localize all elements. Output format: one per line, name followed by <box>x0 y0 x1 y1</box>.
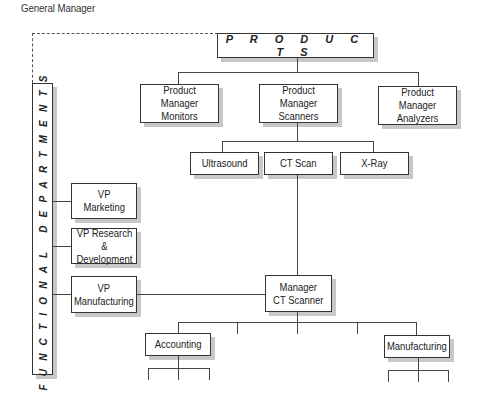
connector <box>373 141 374 152</box>
connector <box>418 72 419 86</box>
connector <box>297 312 298 334</box>
product-manager-scanners-label: Product Manager Scanners <box>265 84 331 123</box>
manager-ct-scanner-box: Manager CT Scanner <box>265 275 332 312</box>
gm-dashed-link-vertical <box>32 33 33 83</box>
connector <box>357 322 358 334</box>
connector <box>53 246 71 247</box>
product-manager-scanners-box: Product Manager Scanners <box>259 84 338 123</box>
connector <box>148 368 210 369</box>
ct-scan-box: CT Scan <box>264 152 333 175</box>
vp-research-development-box: VP Research & Development <box>71 228 137 264</box>
connector <box>178 322 179 333</box>
product-manager-analyzers-box: Product Manager Analyzers <box>378 86 457 125</box>
vp-manufacturing-box: VP Manufacturing <box>71 276 137 313</box>
x-ray-label: X-Ray <box>361 157 387 170</box>
accounting-box: Accounting <box>145 333 211 356</box>
connector <box>297 123 298 141</box>
connector <box>297 175 298 275</box>
products-box: P R O D U C T S <box>217 33 374 58</box>
connector <box>178 72 179 84</box>
manager-ct-scanner-label: Manager CT Scanner <box>273 281 323 307</box>
ultrasound-box: Ultrasound <box>190 152 259 175</box>
connector <box>222 141 223 152</box>
connector <box>297 58 298 72</box>
connector <box>137 294 265 295</box>
connector <box>448 370 449 382</box>
ct-scan-label: CT Scan <box>280 157 317 170</box>
org-chart-canvas: General Manager P R O D U C T S Product … <box>0 0 483 401</box>
connector <box>388 370 449 371</box>
product-manager-monitors-label: Product Manager Monitors <box>146 84 212 123</box>
connector <box>222 141 374 142</box>
connector <box>148 368 149 380</box>
manufacturing-box: Manufacturing <box>384 335 450 358</box>
functional-departments-box: FUNCTIONAL DEPARTMENTS <box>32 83 53 375</box>
vp-manufacturing-label: VP Manufacturing <box>74 282 134 308</box>
connector <box>416 322 417 335</box>
gm-dashed-link-horizontal <box>32 33 218 34</box>
product-manager-analyzers-label: Product Manager Analyzers <box>384 86 450 125</box>
manufacturing-label: Manufacturing <box>387 340 447 353</box>
vp-marketing-label: VP Marketing <box>83 188 125 214</box>
x-ray-box: X-Ray <box>340 152 409 175</box>
connector <box>178 322 417 323</box>
functional-departments-title: FUNCTIONAL DEPARTMENTS <box>37 67 48 390</box>
connector <box>388 370 389 382</box>
vp-research-development-label: VP Research & Development <box>76 227 132 266</box>
accounting-label: Accounting <box>155 338 202 351</box>
products-title: P R O D U C T S <box>218 33 373 59</box>
connector <box>237 322 238 334</box>
product-manager-monitors-box: Product Manager Monitors <box>140 84 219 123</box>
connector <box>178 72 419 73</box>
connector <box>209 368 210 380</box>
general-manager-label: General Manager <box>21 2 95 14</box>
connector <box>53 201 71 202</box>
vp-marketing-box: VP Marketing <box>71 183 137 219</box>
ultrasound-label: Ultrasound <box>202 157 248 170</box>
connector <box>53 294 71 295</box>
